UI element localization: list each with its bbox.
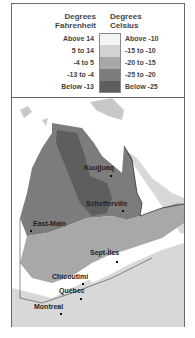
celsius-range: -15 to -10 xyxy=(125,45,156,57)
celsius-range: Above -10 xyxy=(125,33,158,45)
city-label-quebec: Québec xyxy=(59,287,85,294)
legend-row: -4 to 5 -20 to -15 xyxy=(12,57,184,69)
fahrenheit-header: Degrees Fahrenheit xyxy=(44,12,96,30)
legend-row: Above 14 Above -10 xyxy=(12,33,184,45)
legend-swatch xyxy=(99,33,121,45)
city-label-schefferville: Schefferville xyxy=(86,200,128,207)
city-dot xyxy=(30,230,32,232)
city-label-kuujjuaq: Kuujjuaq xyxy=(84,164,114,171)
celsius-range: -25 to -20 xyxy=(125,69,156,81)
celsius-range: Below -25 xyxy=(125,81,158,93)
legend-row: -13 to -4 -25 to -20 xyxy=(12,69,184,81)
quebec-map: Kuujjuaq Schefferville East-Main Sept-Îl… xyxy=(12,98,184,327)
city-label-sept-iles: Sept-Îles xyxy=(90,249,119,256)
celsius-range: -20 to -15 xyxy=(125,57,156,69)
city-dot xyxy=(110,175,112,177)
fahrenheit-range: Below -13 xyxy=(32,81,94,93)
map-shapes xyxy=(12,98,184,327)
city-dot xyxy=(60,313,62,315)
map-figure: Degrees Fahrenheit Degrees Celsius Above… xyxy=(11,3,185,327)
city-dot xyxy=(80,298,82,300)
city-label-chicoutimi: Chicoutimi xyxy=(52,273,88,280)
city-label-east-main: East-Main xyxy=(33,220,66,227)
legend-row: 5 to 14 -15 to -10 xyxy=(12,45,184,57)
celsius-header: Degrees Celsius xyxy=(110,12,160,30)
city-label-montreal: Montreal xyxy=(34,303,63,310)
fahrenheit-range: -13 to -4 xyxy=(32,69,94,81)
city-dot xyxy=(82,283,84,285)
legend-swatch xyxy=(99,57,121,69)
legend-swatch xyxy=(99,45,121,57)
legend: Degrees Fahrenheit Degrees Celsius Above… xyxy=(12,4,184,98)
fahrenheit-range: Above 14 xyxy=(32,33,94,45)
fahrenheit-range: 5 to 14 xyxy=(32,45,94,57)
fahrenheit-range: -4 to 5 xyxy=(32,57,94,69)
legend-row: Below -13 Below -25 xyxy=(12,81,184,93)
legend-swatch xyxy=(99,69,121,81)
legend-swatch xyxy=(99,81,121,93)
city-dot xyxy=(116,261,118,263)
city-dot xyxy=(122,210,124,212)
